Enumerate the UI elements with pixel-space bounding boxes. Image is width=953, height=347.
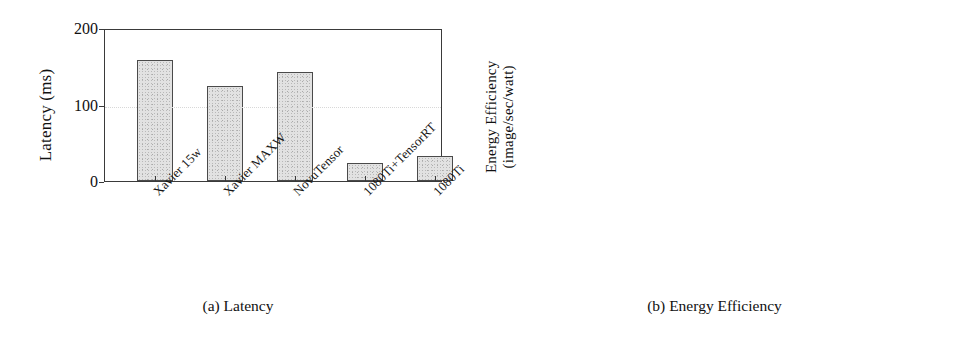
y-axis-title-line2: (image/sec/watt) <box>500 42 517 192</box>
y-axis-title-line1: Energy Efficiency <box>483 42 500 192</box>
bar-xavier-15w <box>137 60 173 181</box>
y-tick-mark <box>99 106 104 107</box>
y-tick-label: 200 <box>52 20 98 38</box>
y-tick-label: 0 <box>52 173 98 191</box>
y-axis-title-energy-efficiency: Energy Efficiency (image/sec/watt) <box>483 42 517 192</box>
y-tick-mark <box>99 29 104 30</box>
y-tick-label: 100 <box>52 97 98 115</box>
gridline <box>105 107 441 108</box>
panel-caption-energy-efficiency: (b) Energy Efficiency <box>476 297 953 315</box>
y-axis-title-latency: Latency (ms) <box>36 40 56 190</box>
figure-two-bar-charts: Latency (ms) 0100200 Xavier 15wXavier MA… <box>0 0 953 347</box>
chart-panel-latency: Latency (ms) 0100200 Xavier 15wXavier MA… <box>0 0 476 347</box>
bar-xavier-maxw <box>207 86 243 181</box>
y-tick-mark <box>99 182 104 183</box>
chart-panel-energy-efficiency: Energy Efficiency (image/sec/watt) 00.20… <box>476 0 953 347</box>
bar-novutensor <box>277 72 313 181</box>
panel-caption-latency: (a) Latency <box>0 297 476 315</box>
